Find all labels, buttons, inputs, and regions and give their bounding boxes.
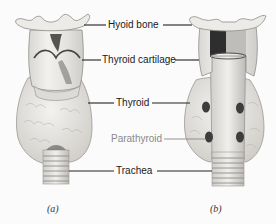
trachea-b [212,152,244,186]
parathyroid-upper-left [202,102,210,113]
label-thyroid-cartilage: Thyroid cartilage [82,54,199,65]
parathyroid-lower-right [236,132,244,143]
parathyroid-lower-left [205,132,213,143]
panel-caption-a: (a) [47,203,59,215]
label-text-trachea: Trachea [116,165,153,176]
panel-b-illustration [184,15,266,186]
thyroid-anatomy-figure: Hyoid bone Thyroid cartilage Thyroid Par… [0,0,276,224]
label-text-hyoid-bone: Hyoid bone [108,19,159,30]
panel-a-illustration [16,14,92,184]
label-text-parathyroid: Parathyroid [111,133,162,144]
label-thyroid: Thyroid [88,97,190,108]
panel-caption-b: (b) [210,203,222,215]
label-text-thyroid: Thyroid [116,97,149,108]
label-hyoid-bone: Hyoid bone [84,19,192,30]
figure-canvas: Hyoid bone Thyroid cartilage Thyroid Par… [0,0,276,224]
label-text-thyroid-cartilage: Thyroid cartilage [102,54,176,65]
label-trachea: Trachea [69,165,212,176]
hyoid-bone-a [16,14,90,31]
parathyroid-upper-right [236,103,244,114]
trachea-a [43,150,69,184]
